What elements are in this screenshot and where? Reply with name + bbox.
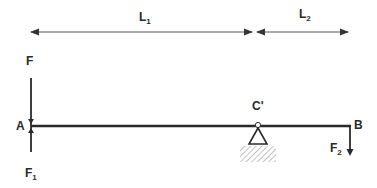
l2-subscript: 2 (306, 14, 311, 23)
l1-label: L (139, 10, 146, 24)
force-f-arrowhead-icon (28, 119, 34, 124)
beam-diagram: L1 L2 F A F1 C' B F2 (0, 0, 377, 188)
force-f-label: F (26, 54, 33, 68)
ground-hatch (240, 146, 276, 162)
force-f2-arrowhead-icon (347, 149, 354, 156)
pin-support (240, 122, 276, 162)
pin-joint-icon (255, 122, 260, 127)
svg-text:L2: L2 (299, 7, 311, 23)
dimension-l2: L2 (257, 7, 348, 32)
svg-text:L1: L1 (139, 10, 151, 26)
point-b-label: B (354, 118, 363, 132)
forces-at-a (28, 78, 34, 152)
dimension-l1: L1 (31, 10, 252, 32)
l2-label: L (299, 7, 306, 21)
force-f2-label: F2 (330, 141, 342, 157)
force-f1-label: F1 (25, 166, 37, 182)
point-c-label: C' (252, 99, 264, 113)
support-triangle-icon (249, 128, 267, 144)
force-f2 (347, 125, 354, 156)
point-a-label: A (16, 119, 25, 133)
l1-subscript: 1 (146, 17, 151, 26)
force-f1-arrowhead-icon (28, 128, 34, 133)
